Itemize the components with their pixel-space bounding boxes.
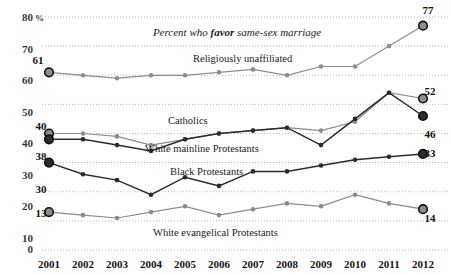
data-point <box>353 157 358 162</box>
data-point <box>217 131 222 136</box>
x-tick-2007: 2007 <box>242 258 265 270</box>
endpoint-catholics-2001: 40 <box>36 120 48 132</box>
x-tick-2003: 2003 <box>106 258 129 270</box>
series-1 <box>45 90 428 147</box>
title-post: same-sex marriage <box>234 26 321 38</box>
endpoint-catholics-2012: 52 <box>425 85 437 97</box>
data-point <box>285 125 290 130</box>
data-point <box>45 135 54 144</box>
data-point <box>319 163 324 168</box>
y-tick-50: 50 <box>22 106 34 118</box>
x-tick-2005: 2005 <box>174 258 197 270</box>
x-tick-2011: 2011 <box>378 258 399 270</box>
series-label-unaffiliated: Religiously unaffiliated <box>193 53 293 64</box>
data-point <box>251 169 256 174</box>
data-point <box>251 67 256 72</box>
endpoint-mainline-2001: 38 <box>36 150 48 162</box>
series-label-evangelical: White evangelical Protestants <box>153 227 278 238</box>
data-point <box>353 64 358 69</box>
x-tick-2008: 2008 <box>276 258 299 270</box>
y-tick-40: 40 <box>22 137 34 149</box>
series-line <box>49 195 423 218</box>
x-axis-tick-labels: 2001 2002 2003 2004 2005 2006 2007 2008 … <box>38 258 435 270</box>
data-point <box>251 207 256 212</box>
y-tick-30: 30 <box>22 169 34 181</box>
x-tick-2006: 2006 <box>208 258 231 270</box>
data-point <box>45 68 54 77</box>
data-point <box>319 204 324 209</box>
title-pre: Percent who <box>152 26 211 38</box>
series-inline-labels: Religiously unaffiliated Catholics White… <box>145 53 293 238</box>
x-tick-2001: 2001 <box>38 258 60 270</box>
data-point <box>387 44 392 49</box>
series-label-black: Black Protestants <box>170 166 243 177</box>
y-axis-unit: % <box>35 13 44 23</box>
title-bold: favor <box>211 26 236 38</box>
endpoint-evangelical-2012: 14 <box>425 212 437 224</box>
y-tick-80: 80 <box>22 11 34 23</box>
data-point <box>419 21 428 30</box>
x-tick-2010: 2010 <box>344 258 367 270</box>
x-tick-2009: 2009 <box>310 258 333 270</box>
x-tick-2004: 2004 <box>140 258 163 270</box>
data-point <box>149 192 154 197</box>
series-label-catholics: Catholics <box>168 115 208 126</box>
data-point <box>183 204 188 209</box>
chart-container: 80 % 70 60 50 40 30 20 10 0 2001 2002 20… <box>0 0 451 275</box>
endpoint-unaffiliated-2012: 77 <box>423 4 435 16</box>
endpoint-black-2012: 33 <box>425 147 437 159</box>
data-point <box>285 169 290 174</box>
series-line <box>49 93 423 145</box>
data-point <box>353 192 358 197</box>
data-point <box>419 112 428 121</box>
data-point <box>217 70 222 75</box>
data-point <box>149 73 154 78</box>
series-layer <box>45 21 428 220</box>
endpoint-mainline-2012: 46 <box>425 128 437 140</box>
data-point <box>251 128 256 133</box>
y-tick-60: 60 <box>22 74 34 86</box>
endpoint-unaffiliated-2001: 61 <box>33 54 44 66</box>
data-point <box>217 213 222 218</box>
data-point <box>285 73 290 78</box>
y-tick-20: 20 <box>22 200 34 212</box>
data-point <box>81 213 86 218</box>
x-tick-2012: 2012 <box>412 258 435 270</box>
data-point <box>319 143 324 148</box>
endpoint-black-2001: 30 <box>36 183 48 195</box>
data-point <box>149 210 154 215</box>
data-point <box>115 143 120 148</box>
line-chart: 80 % 70 60 50 40 30 20 10 0 2001 2002 20… <box>0 0 451 275</box>
data-point <box>285 201 290 206</box>
data-point <box>387 201 392 206</box>
series-4 <box>45 192 428 220</box>
y-tick-0: 0 <box>28 243 34 255</box>
data-point <box>81 172 86 177</box>
data-point <box>81 137 86 142</box>
data-point <box>81 131 86 136</box>
chart-title: Percent who favor same-sex marriage <box>152 26 321 38</box>
data-point <box>115 134 120 139</box>
gridlines <box>42 17 449 250</box>
data-point <box>387 155 392 160</box>
data-point <box>115 216 120 221</box>
x-tick-2002: 2002 <box>72 258 95 270</box>
data-point <box>319 64 324 69</box>
data-point <box>81 73 86 78</box>
data-point <box>183 73 188 78</box>
data-point <box>183 137 188 142</box>
data-point <box>115 178 120 183</box>
endpoint-evangelical-2001: 13 <box>36 207 48 219</box>
data-point <box>353 117 358 122</box>
data-point <box>319 128 324 133</box>
data-point <box>387 90 392 95</box>
data-point <box>115 76 120 81</box>
data-point <box>217 184 222 189</box>
series-label-mainline: White mainline Protestants <box>145 143 259 154</box>
